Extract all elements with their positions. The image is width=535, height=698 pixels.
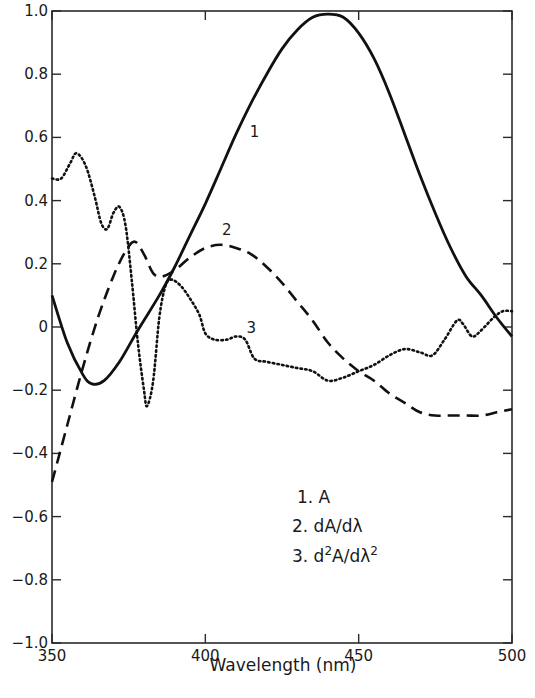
- y-tick-label: −0.8: [12, 571, 48, 589]
- series-1-solid-line: [52, 14, 512, 384]
- legend-item-3: 3. d2A/dλ2: [292, 544, 378, 566]
- y-tick-label: 1.0: [24, 2, 48, 20]
- y-tick-label: −0.6: [12, 508, 48, 526]
- x-axis-title: Wavelength (nm): [210, 655, 357, 675]
- series-3-dotted-line: [52, 153, 512, 406]
- curve-label-1: 1: [250, 123, 260, 141]
- legend-item-1: 1. A: [297, 487, 331, 507]
- y-tick-label: 0.4: [24, 192, 48, 210]
- curve-label-2: 2: [222, 221, 232, 239]
- y-tick-label: 0.6: [24, 128, 48, 146]
- legend-item-2: 2. dA/dλ: [292, 516, 363, 536]
- y-tick-label: −0.4: [12, 444, 48, 462]
- curve-label-3: 3: [247, 319, 257, 337]
- x-tick-label: 350: [38, 647, 67, 665]
- derivative-spectra-chart: 1.00.80.60.40.20−0.2−0.4−0.6−0.8−1.03504…: [0, 0, 535, 698]
- y-tick-label: 0: [38, 318, 48, 336]
- curves: [52, 14, 512, 482]
- x-tick-label: 500: [498, 647, 527, 665]
- y-tick-label: 0.2: [24, 255, 48, 273]
- y-tick-label: −0.2: [12, 381, 48, 399]
- legend: 1. A 2. dA/dλ 3. d2A/dλ2: [292, 487, 378, 566]
- plot-frame: [52, 11, 512, 643]
- y-tick-label: 0.8: [24, 65, 48, 83]
